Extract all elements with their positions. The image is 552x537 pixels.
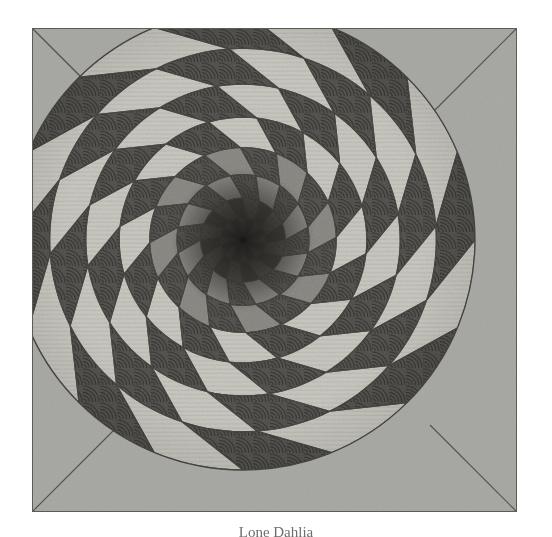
quilt-medallion-graphic — [32, 28, 517, 512]
artwork-plate — [32, 28, 517, 512]
page-root: Lone Dahlia — [0, 0, 552, 537]
artwork-caption: Lone Dahlia — [0, 524, 552, 537]
